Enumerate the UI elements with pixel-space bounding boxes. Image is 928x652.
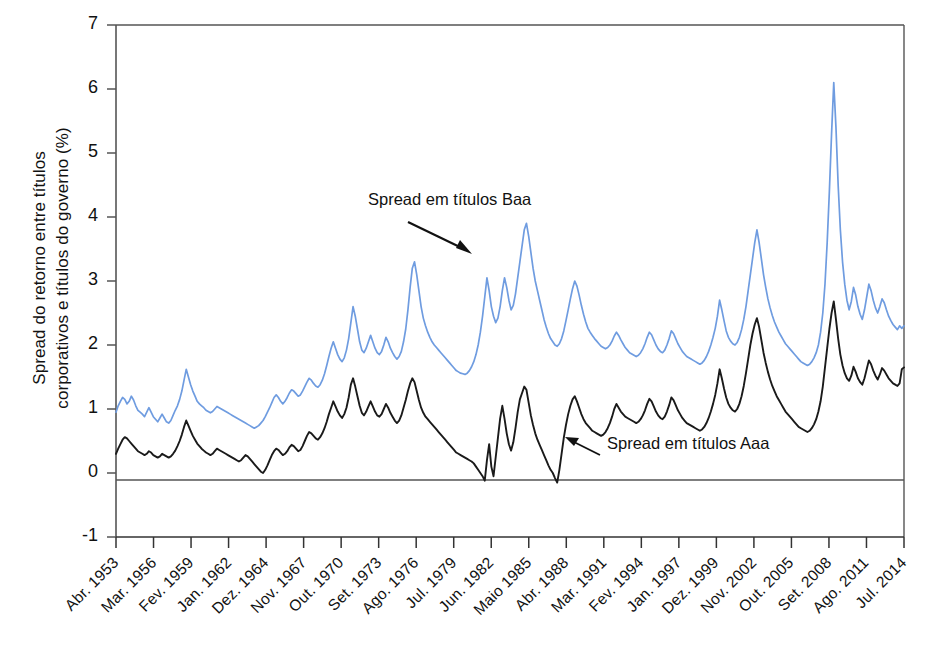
- y-axis-tick-label: -1: [64, 525, 98, 546]
- y-axis-tick-label: 5: [64, 141, 98, 162]
- series-line-baa: [116, 83, 904, 429]
- plot-area: [0, 0, 928, 652]
- y-axis-tick-label: 2: [64, 333, 98, 354]
- aaa-annotation-arrow-head: [565, 437, 579, 446]
- y-axis-tick-label: 6: [64, 77, 98, 98]
- y-axis-tick-label: 7: [64, 13, 98, 34]
- annotation-aaa-label: Spread em títulos Aaa: [607, 434, 769, 453]
- y-axis-tick-label: 1: [64, 397, 98, 418]
- chart-figure: Spread do retorno entre títulos corporat…: [0, 0, 928, 652]
- annotation-baa-label: Spread em títulos Baa: [368, 190, 531, 209]
- y-axis-tick-label: 3: [64, 269, 98, 290]
- x-axis-ticks: [116, 537, 904, 548]
- series-line-aaa: [116, 301, 904, 482]
- y-axis-ticks: [107, 25, 116, 537]
- axes: [116, 25, 904, 537]
- y-axis-tick-label: 0: [64, 461, 98, 482]
- y-axis-tick-label: 4: [64, 205, 98, 226]
- baa-annotation-arrow-head: [456, 240, 472, 254]
- data-series-group: [116, 83, 904, 483]
